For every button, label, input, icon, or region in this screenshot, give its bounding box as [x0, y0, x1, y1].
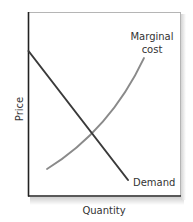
- chart: Marginal cost Demand Quantity Price: [0, 0, 193, 222]
- x-axis-label: Quantity: [82, 205, 125, 216]
- demand-line: [29, 51, 129, 180]
- frame-shadow-bottom: [30, 197, 184, 205]
- mc-label-line1: Marginal: [130, 31, 173, 42]
- marginal-cost-curve: [47, 58, 144, 169]
- demand-label: Demand: [133, 177, 175, 188]
- frame-shadow-right: [181, 14, 186, 200]
- mc-label-line2: cost: [142, 44, 163, 55]
- y-axis-label: Price: [14, 97, 25, 121]
